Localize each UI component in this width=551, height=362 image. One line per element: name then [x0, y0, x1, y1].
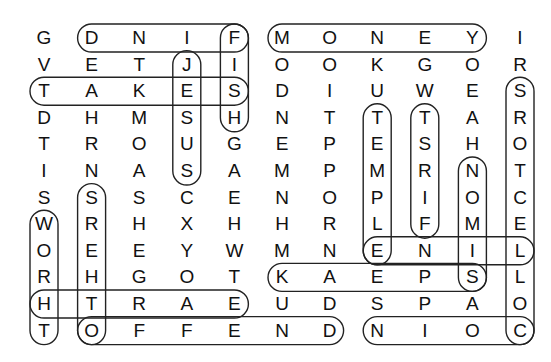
grid-letter[interactable]: N	[405, 238, 445, 264]
grid-letter[interactable]: F	[214, 25, 254, 51]
grid-letter[interactable]: U	[262, 291, 302, 317]
grid-letter[interactable]: N	[357, 318, 397, 344]
grid-letter[interactable]: H	[72, 105, 112, 131]
grid-letter[interactable]: M	[262, 158, 302, 184]
grid-letter[interactable]: G	[214, 131, 254, 157]
grid-letter[interactable]: P	[357, 185, 397, 211]
grid-letter[interactable]: V	[24, 52, 64, 78]
grid-letter[interactable]: H	[214, 105, 254, 131]
grid-letter[interactable]: H	[452, 131, 492, 157]
grid-letter[interactable]: O	[500, 131, 540, 157]
grid-letter[interactable]: D	[310, 291, 350, 317]
grid-letter[interactable]: E	[72, 52, 112, 78]
grid-letter[interactable]: R	[500, 52, 540, 78]
grid-letter[interactable]: E	[262, 131, 302, 157]
grid-letter[interactable]: O	[167, 264, 207, 290]
grid-letter[interactable]: I	[452, 238, 492, 264]
grid-letter[interactable]: E	[214, 185, 254, 211]
grid-letter[interactable]: M	[357, 158, 397, 184]
grid-letter[interactable]: R	[405, 158, 445, 184]
grid-letter[interactable]: I	[214, 52, 254, 78]
grid-letter[interactable]: D	[72, 25, 112, 51]
grid-letter[interactable]: M	[262, 25, 302, 51]
grid-letter[interactable]: G	[405, 52, 445, 78]
grid-letter[interactable]: S	[167, 105, 207, 131]
grid-letter[interactable]: A	[214, 158, 254, 184]
grid-letter[interactable]: N	[357, 25, 397, 51]
grid-letter[interactable]: P	[310, 131, 350, 157]
grid-letter[interactable]: H	[262, 211, 302, 237]
grid-letter[interactable]: R	[72, 131, 112, 157]
grid-letter[interactable]: T	[24, 318, 64, 344]
grid-letter[interactable]: N	[119, 25, 159, 51]
grid-letter[interactable]: H	[24, 291, 64, 317]
grid-letter[interactable]: O	[310, 52, 350, 78]
grid-letter[interactable]: I	[24, 158, 64, 184]
grid-letter[interactable]: O	[310, 185, 350, 211]
grid-letter[interactable]: X	[167, 211, 207, 237]
grid-letter[interactable]: E	[119, 238, 159, 264]
grid-letter[interactable]: I	[167, 25, 207, 51]
grid-letter[interactable]: U	[167, 131, 207, 157]
grid-letter[interactable]: I	[310, 78, 350, 104]
grid-letter[interactable]: D	[262, 78, 302, 104]
grid-letter[interactable]: E	[357, 238, 397, 264]
grid-letter[interactable]: T	[310, 105, 350, 131]
grid-letter[interactable]: P	[405, 291, 445, 317]
grid-letter[interactable]: L	[500, 264, 540, 290]
grid-letter[interactable]: C	[500, 318, 540, 344]
grid-letter[interactable]: O	[310, 25, 350, 51]
grid-letter[interactable]: T	[357, 105, 397, 131]
grid-letter[interactable]: T	[500, 158, 540, 184]
grid-letter[interactable]: E	[214, 291, 254, 317]
grid-letter[interactable]: M	[119, 105, 159, 131]
grid-letter[interactable]: N	[310, 238, 350, 264]
grid-letter[interactable]: H	[214, 211, 254, 237]
grid-letter[interactable]: K	[262, 264, 302, 290]
grid-letter[interactable]: O	[119, 131, 159, 157]
grid-letter[interactable]: C	[167, 185, 207, 211]
grid-letter[interactable]: R	[500, 105, 540, 131]
grid-letter[interactable]: S	[500, 78, 540, 104]
grid-letter[interactable]: A	[452, 291, 492, 317]
grid-letter[interactable]: S	[24, 185, 64, 211]
grid-letter[interactable]: D	[24, 105, 64, 131]
grid-letter[interactable]: P	[310, 158, 350, 184]
grid-letter[interactable]: K	[357, 52, 397, 78]
grid-letter[interactable]: D	[310, 318, 350, 344]
grid-letter[interactable]: I	[500, 25, 540, 51]
grid-letter[interactable]: A	[167, 291, 207, 317]
grid-letter[interactable]: W	[214, 238, 254, 264]
grid-letter[interactable]: E	[357, 131, 397, 157]
grid-letter[interactable]: P	[405, 264, 445, 290]
grid-letter[interactable]: O	[452, 52, 492, 78]
grid-letter[interactable]: E	[167, 78, 207, 104]
grid-letter[interactable]: W	[405, 78, 445, 104]
grid-letter[interactable]: G	[24, 25, 64, 51]
grid-letter[interactable]: E	[500, 211, 540, 237]
grid-letter[interactable]: C	[500, 185, 540, 211]
grid-letter[interactable]: M	[452, 211, 492, 237]
grid-letter[interactable]: E	[357, 264, 397, 290]
grid-letter[interactable]: S	[72, 185, 112, 211]
grid-letter[interactable]: Y	[167, 238, 207, 264]
grid-letter[interactable]: O	[452, 185, 492, 211]
grid-letter[interactable]: A	[119, 158, 159, 184]
grid-letter[interactable]: U	[357, 78, 397, 104]
grid-letter[interactable]: O	[24, 238, 64, 264]
grid-letter[interactable]: F	[405, 211, 445, 237]
grid-letter[interactable]: W	[24, 211, 64, 237]
grid-letter[interactable]: O	[262, 52, 302, 78]
grid-letter[interactable]: I	[405, 318, 445, 344]
grid-letter[interactable]: N	[72, 158, 112, 184]
grid-letter[interactable]: S	[167, 158, 207, 184]
grid-letter[interactable]: T	[119, 52, 159, 78]
grid-letter[interactable]: T	[24, 131, 64, 157]
grid-letter[interactable]: L	[357, 211, 397, 237]
grid-letter[interactable]: K	[119, 78, 159, 104]
grid-letter[interactable]: G	[119, 264, 159, 290]
grid-letter[interactable]: M	[262, 238, 302, 264]
grid-letter[interactable]: T	[214, 264, 254, 290]
grid-letter[interactable]: E	[214, 318, 254, 344]
grid-letter[interactable]: S	[119, 185, 159, 211]
